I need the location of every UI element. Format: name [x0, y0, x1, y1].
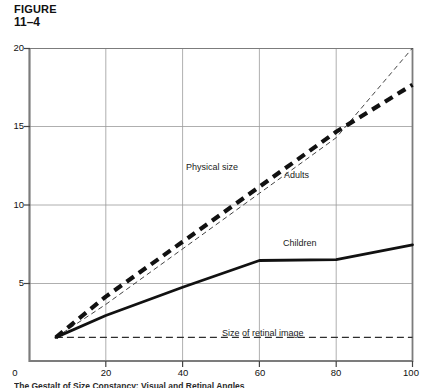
x-tick-label-100: 100 [396, 368, 426, 378]
chart-plot [0, 0, 428, 388]
x-tick-label-80: 80 [321, 368, 351, 378]
series-label-physical-size: Physical size [186, 162, 238, 172]
x-tick-label-60: 60 [245, 368, 275, 378]
y-tick-label-5: 5 [2, 278, 24, 288]
y-tick-label-20: 20 [2, 43, 24, 53]
series-label-adults: Adults [284, 170, 309, 180]
x-tick-label-40: 40 [168, 368, 198, 378]
series-label-children: Children [283, 238, 317, 248]
x-tick-label-20: 20 [91, 368, 121, 378]
y-tick-label-10: 10 [2, 200, 24, 210]
chart: 20 15 10 5 0 20 40 60 80 100 Physical si… [0, 0, 428, 388]
x-tick-label-0: 0 [0, 368, 30, 378]
figure-caption: The Gestalt of Size Constancy: Visual an… [14, 381, 418, 388]
y-tick-label-15: 15 [2, 121, 24, 131]
series-label-size-of-retinal-image: Size of retinal image [222, 328, 304, 338]
figure-root: FIGURE 11–4 [0, 0, 428, 388]
